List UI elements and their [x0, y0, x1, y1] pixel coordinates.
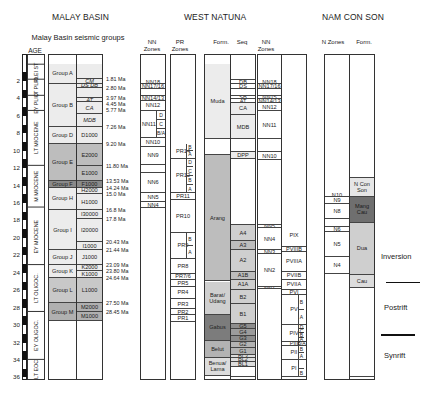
- nn-zone-cell: NN10: [141, 138, 165, 148]
- malay-seq-column: CMDS DBATCAMDBD1000E2000E1000F1000H2000H…: [76, 54, 103, 380]
- seismic-group-cell: Group J: [49, 250, 76, 264]
- sequence-cell: G1: [231, 348, 255, 355]
- malay-basin-title: MALAY BASIN: [52, 12, 109, 22]
- age-tick-label: 18: [0, 216, 20, 223]
- tectonic-boundary-line: [386, 282, 420, 284]
- nn-zone-cell: NN11: [141, 111, 156, 138]
- formation-cell: Benua/ Lama: [205, 358, 230, 375]
- seismic-group-cell: Group E: [49, 144, 76, 182]
- ma-age-label: 14.24 Ma: [106, 185, 128, 191]
- seismic-group-cell: Group H: [49, 188, 76, 210]
- pr-zone-cell: PR10: [171, 200, 195, 233]
- epoch-label: EY MIOCENE: [28, 207, 44, 265]
- epoch-label: LT MIOCENE: [28, 110, 44, 165]
- nn-zone-cell: NN1: [258, 287, 281, 290]
- nn-zone-cell: NN4: [258, 228, 281, 250]
- age-axis: 24681012141618202224262830323436PLEI STL…: [0, 0, 45, 393]
- formation-cell: Mang Cau: [350, 197, 374, 223]
- subzone-cell: A: [186, 246, 193, 259]
- ncs-n-zones-column: N10N9N8N6N5N4: [324, 54, 350, 380]
- sequence-cell: A1A: [231, 280, 255, 290]
- sequence-cell: A2: [231, 250, 255, 272]
- age-tick-label: 6: [0, 112, 20, 119]
- seismic-sequence-cell: I1000: [77, 242, 102, 251]
- ncs-formation-column: N Con SonMang CauDuaCau: [349, 54, 375, 380]
- formation-cell: Gabus: [205, 315, 230, 341]
- age-tick-label: 8: [0, 129, 20, 136]
- subzone-cell: B: [186, 144, 193, 151]
- wn-nn-zones-column: NN18NN17/16NN14/13NN12NN11NN10NN9NN6NN5N…: [140, 54, 166, 380]
- formation-cell: Cau: [350, 275, 374, 288]
- ma-age-label: 23.80 Ma: [106, 268, 128, 274]
- seismic-sequence-cell: [77, 88, 102, 98]
- seismic-sequence-cell: K1000: [77, 271, 102, 278]
- age-tick-label: 28: [0, 304, 20, 311]
- ma-age-label: 4.45 Ma: [106, 101, 125, 107]
- age-tick-label: 32: [0, 339, 20, 346]
- formation-cell: N Con Son: [350, 178, 374, 197]
- seismic-group-cell: Group K: [49, 265, 76, 279]
- subzone-cell: [298, 360, 304, 369]
- seismic-sequence-cell: CA: [77, 102, 102, 114]
- tectonic-phase-label: Inversion: [381, 252, 411, 261]
- pr-zones-column: PR14BAPR12DCBAPR11PR10PR9BAPR8PR7/6PR5PR…: [170, 54, 196, 380]
- form-header-ncs: Form.: [351, 39, 377, 46]
- age-tick-label: 12: [0, 164, 20, 171]
- seismic-group-cell: Group M: [49, 303, 76, 320]
- subzone-cell: C: [186, 167, 193, 176]
- age-tick-label: 14: [0, 182, 20, 189]
- ma-age-label: 28.45 Ma: [106, 309, 128, 315]
- nn-zone-cell: [258, 89, 281, 96]
- nn-zone-cell: [141, 89, 165, 96]
- age-tick-label: 34: [0, 356, 20, 363]
- n-zone-cell: N8: [325, 204, 349, 219]
- n-zone-cell: N4: [325, 257, 349, 274]
- epoch-label: LT EOC: [28, 359, 44, 379]
- age-tick-label: 26: [0, 286, 20, 293]
- subzone-cell: B: [298, 295, 304, 310]
- sequence-cell: [231, 64, 255, 81]
- pr-zone-cell: PR3: [171, 299, 195, 309]
- ma-age-label: 17.8 Ma: [106, 216, 125, 222]
- seismic-sequence-cell: E2000: [77, 144, 102, 167]
- seismic-sequence-cell: E1000: [77, 166, 102, 181]
- formation-cell: Dua: [350, 223, 374, 274]
- n-zone-cell: N9: [325, 197, 349, 204]
- pr-zones-header: PR Zones: [167, 39, 193, 53]
- formation-cell: [350, 64, 374, 178]
- subzone-cell: B: [186, 176, 193, 185]
- ma-labels: 1.81 Ma2.80 Ma3.97 Ma4.45 Ma5.77 Ma7.26 …: [106, 0, 138, 393]
- nn-zone-cell: NN12: [141, 101, 165, 111]
- wn-formation-column: MudaArangBarat/ UdangGabusBelutBenua/ La…: [204, 54, 231, 380]
- seismic-group-cell: Group D: [49, 127, 76, 144]
- pr-zone-cell: PR4: [171, 287, 195, 299]
- palyno-zone-cell: PIX: [282, 225, 306, 247]
- ma-age-label: 1.81 Ma: [106, 76, 125, 82]
- seismic-sequence-cell: J1000: [77, 250, 102, 264]
- age-tick-label: 16: [0, 199, 20, 206]
- nn11-subzone-cell: C: [156, 120, 165, 129]
- nn11-subzone-cell: B/A: [156, 129, 165, 138]
- ma-age-label: 21.44 Ma: [106, 247, 128, 253]
- formation-cell: Muda: [205, 64, 230, 140]
- seismic-group-cell: Group I: [49, 210, 76, 250]
- n-zone-cell: [325, 219, 349, 227]
- nn-zone-cell: NN5: [141, 193, 165, 203]
- sequence-cell: B1: [231, 304, 255, 324]
- ma-age-label: 16.8 Ma: [106, 207, 125, 213]
- subzone-cell: B: [298, 346, 304, 353]
- sequence-cell: A1B: [231, 272, 255, 280]
- ma-age-label: 9.20 Ma: [106, 141, 125, 147]
- sequence-cell: CA: [231, 103, 255, 115]
- subzone-cell: B: [298, 369, 304, 378]
- seismic-group-cell: Group A: [49, 64, 76, 84]
- nn-zone-cell: NN6: [141, 173, 165, 192]
- sequence-cell: A3: [231, 241, 255, 250]
- formation-cell: Belut: [205, 341, 230, 358]
- subzone-cell: D: [186, 159, 193, 168]
- ma-age-label: 24.64 Ma: [106, 275, 128, 281]
- ma-age-label: 23.09 Ma: [106, 262, 128, 268]
- epoch-label: EY OLIGOC.: [28, 311, 44, 359]
- ma-age-label: 7.26 Ma: [106, 124, 125, 130]
- wn-sequence-column: DBDSSBATCAMDBDPPA4A3A2A1BA1AB2B1G5G4G3G2…: [230, 54, 256, 380]
